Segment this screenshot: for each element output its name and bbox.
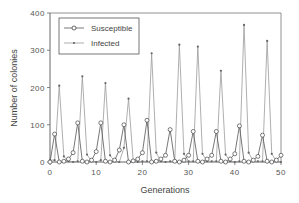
y-tick-label: 200 — [30, 84, 45, 93]
x-tick-label: 50 — [276, 168, 286, 177]
legend-label-infected: Infected — [91, 39, 119, 48]
susceptible-point — [53, 132, 57, 136]
infected-point — [257, 160, 259, 162]
infected-point — [178, 44, 180, 46]
susceptible-point — [113, 158, 117, 162]
susceptible-point — [117, 148, 121, 152]
susceptible-point — [48, 160, 52, 164]
susceptible-point — [131, 159, 135, 163]
susceptible-point — [237, 124, 241, 128]
susceptible-point — [150, 160, 154, 164]
x-axis-ticks: 01020304050 — [48, 162, 286, 177]
y-tick-label: 300 — [30, 46, 45, 55]
susceptible-point — [224, 160, 228, 164]
infected-point — [127, 98, 129, 100]
susceptible-point — [279, 153, 283, 157]
infected-point — [215, 160, 217, 162]
susceptible-point — [200, 160, 204, 164]
x-tick-label: 30 — [184, 168, 194, 177]
susceptible-point — [76, 121, 80, 125]
infected-point — [72, 161, 74, 163]
susceptible-point — [159, 157, 163, 161]
infected-point — [243, 24, 245, 26]
infected-point — [266, 40, 268, 42]
infected-point — [211, 160, 213, 162]
susceptible-point — [265, 159, 269, 163]
susceptible-point — [90, 158, 94, 162]
y-tick-label: 400 — [30, 9, 45, 18]
susceptible-point — [187, 153, 191, 157]
infected-point — [141, 160, 143, 162]
x-tick-label: 40 — [230, 168, 240, 177]
infected-point — [169, 160, 171, 162]
x-tick-label: 20 — [137, 168, 147, 177]
chart: 0100200300400 01020304050 Generations Nu… — [0, 0, 299, 203]
infected-point — [118, 161, 120, 163]
infected-point — [155, 152, 157, 154]
infected-point — [224, 153, 226, 155]
y-tick-label: 100 — [30, 121, 45, 130]
infected-point — [77, 160, 79, 162]
infected-point — [146, 160, 148, 162]
susceptible-point — [219, 159, 223, 163]
susceptible-point — [127, 160, 131, 164]
dot-marker-icon — [73, 42, 75, 44]
susceptible-point — [154, 159, 158, 163]
infected-point — [54, 159, 56, 161]
infected-point — [192, 160, 194, 162]
susceptible-point — [164, 153, 168, 157]
infected-point — [220, 70, 222, 72]
susceptible-point — [173, 159, 177, 163]
infected-point — [86, 153, 88, 155]
susceptible-point — [66, 157, 70, 161]
susceptible-point — [191, 129, 195, 133]
infected-point — [151, 52, 153, 54]
infected-point — [58, 85, 60, 87]
susceptible-point — [94, 150, 98, 154]
x-tick-label: 0 — [48, 168, 53, 177]
infected-point — [201, 153, 203, 155]
infected-point — [234, 161, 236, 163]
x-axis-label: Generations — [140, 185, 190, 195]
susceptible-point — [205, 157, 209, 161]
susceptible-point — [210, 153, 214, 157]
susceptible-point — [62, 159, 66, 163]
infected-point — [197, 45, 199, 47]
susceptible-point — [108, 160, 112, 164]
susceptible-point — [256, 154, 260, 158]
susceptible-point — [57, 160, 61, 164]
infected-point — [95, 161, 97, 163]
infected-point — [104, 82, 106, 84]
infected-point — [81, 75, 83, 77]
infected-point — [261, 160, 263, 162]
infected-point — [63, 155, 65, 157]
susceptible-point — [233, 152, 237, 156]
infected-point — [280, 161, 282, 163]
susceptible-point — [274, 158, 278, 162]
open-circle-marker-icon — [72, 26, 76, 30]
susceptible-point — [261, 133, 265, 137]
infected-point — [109, 154, 111, 156]
susceptible-point — [182, 158, 186, 162]
susceptible-point — [168, 128, 172, 132]
susceptible-point — [214, 129, 218, 133]
x-tick-label: 10 — [91, 168, 101, 177]
infected-point — [123, 147, 125, 149]
susceptible-point — [71, 151, 75, 155]
susceptible-point — [247, 160, 251, 164]
susceptible-point — [242, 159, 246, 163]
susceptible-point — [103, 159, 107, 163]
susceptible-point — [177, 160, 181, 164]
infected-point — [248, 152, 250, 154]
y-axis-ticks: 0100200300400 — [30, 9, 50, 167]
susceptible-point — [196, 159, 200, 163]
susceptible-point — [99, 121, 103, 125]
susceptible-point — [136, 157, 140, 161]
infected-point — [100, 159, 102, 161]
infected-point — [183, 153, 185, 155]
legend-label-susceptible: Susceptible — [91, 24, 133, 33]
susceptible-point — [228, 157, 232, 161]
susceptible-point — [80, 159, 84, 163]
infected-point — [188, 160, 190, 162]
susceptible-point — [140, 151, 144, 155]
